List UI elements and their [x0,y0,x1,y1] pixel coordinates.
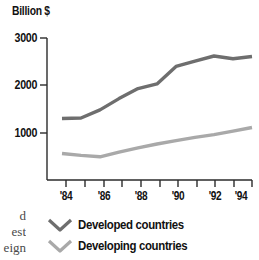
x-tick-marks [66,180,252,187]
legend-item-developed-countries: Developed countries [47,214,202,235]
chart-legend: Developed countries Developing countries [47,214,202,256]
legend-swatch-developing-icon [47,238,73,254]
margin-text-line-2: est [0,224,26,240]
x-tick-label-86: '86 [89,189,119,203]
y-tick-label-1000: 1000 [7,125,37,140]
margin-text-line-3: eign [0,240,26,256]
chart-figure: Billion $ 3 [0,0,259,260]
x-tick-label-88: '88 [126,189,156,203]
y-tick-label-2000: 2000 [7,77,37,92]
x-tick-label-84: '84 [51,189,81,203]
x-tick-label-94: '94 [226,189,256,203]
x-tick-label-90: '90 [163,189,193,203]
y-tick-label-3000: 3000 [7,30,37,45]
legend-label-developing-countries: Developing countries [78,238,187,253]
legend-label-developed-countries: Developed countries [78,217,184,232]
y-tick-marks [40,38,47,133]
series-line-developed-countries [62,56,252,119]
legend-swatch-developed-icon [47,217,73,233]
margin-text-line-1: d [0,208,26,224]
series-line-developing-countries [62,128,252,157]
legend-item-developing-countries: Developing countries [47,235,202,256]
margin-text-fragments: d est eign [0,208,26,256]
